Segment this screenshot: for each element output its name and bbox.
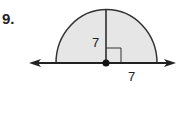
vertical-radius-label: 7 bbox=[92, 35, 99, 50]
horizontal-radius-label: 7 bbox=[128, 69, 135, 84]
center-point bbox=[103, 60, 110, 67]
semicircle-diagram: 7 7 bbox=[0, 0, 180, 130]
